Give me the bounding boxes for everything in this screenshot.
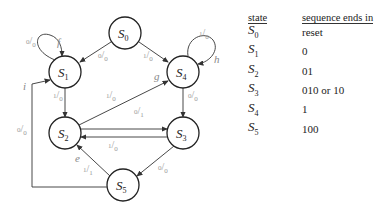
annotation-h: h [214, 53, 220, 65]
label-s3-s2: 1/0 [108, 139, 118, 153]
table-row: S5 100 [240, 120, 373, 139]
state-s1: S1 [49, 56, 81, 88]
label-s2-s4: 1/0 [106, 89, 116, 103]
table-row: S2 01 [240, 62, 373, 81]
label-s0-s1: 0/0 [98, 49, 108, 63]
table-row: S0 reset [240, 23, 373, 42]
state-encoding-table: state sequence ends in S0 reset S1 0 S2 … [240, 12, 373, 139]
label-s2-s3: 0/1 [134, 105, 144, 119]
label-s5-s2: 1/1 [83, 163, 93, 177]
state-s3: S3 [167, 117, 199, 149]
edge-s2-s4 [79, 81, 168, 125]
label-s1-s2: 1/0 [53, 89, 63, 103]
edge-s5-s2 [77, 145, 110, 176]
label-s1-loop: 0/0 [26, 35, 36, 49]
table-row: S3 010 or 10 [240, 81, 373, 100]
annotation-g: g [154, 70, 160, 82]
annotation-f: f [57, 36, 62, 48]
state-s4: S4 [167, 56, 199, 88]
label-s5-s1: 0/0 [17, 123, 27, 137]
label-s4-loop: 1/0 [199, 27, 209, 41]
state-s2: S2 [49, 117, 81, 149]
state-s5: S5 [107, 169, 139, 201]
state-s0: S0 [109, 17, 141, 49]
edge-s3-s5 [137, 146, 174, 176]
table-row: S1 0 [240, 42, 373, 61]
header-sequence: sequence ends in [298, 12, 373, 23]
label-s4-s3: 0/0 [188, 89, 198, 103]
label-s3-s5: 0/0 [158, 161, 168, 175]
table-row: S4 1 [240, 101, 373, 120]
annotation-i: i [23, 80, 26, 92]
annotation-e: e [75, 152, 80, 164]
